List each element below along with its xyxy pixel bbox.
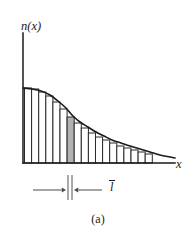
bar (103, 140, 110, 163)
x-axis-label: x (176, 158, 182, 171)
bar (81, 128, 88, 163)
bar (117, 146, 124, 163)
bar (110, 143, 117, 163)
dimension-arrowhead-right (74, 187, 78, 192)
bar (46, 96, 53, 163)
figure-container: n(x) x l (a) (0, 0, 196, 239)
figure-caption: (a) (0, 213, 196, 225)
bar (60, 109, 67, 163)
bar (96, 137, 103, 163)
bar (124, 148, 131, 163)
mean-free-path-label: l (110, 180, 113, 194)
bars-group (25, 88, 153, 163)
bar (53, 102, 60, 163)
bar (88, 133, 95, 163)
bar (39, 92, 46, 163)
bar (32, 89, 39, 163)
bar (145, 154, 152, 163)
mean-free-path-symbol: l (110, 180, 113, 194)
bar (138, 152, 145, 163)
bar (131, 150, 138, 163)
dimension-annotation (33, 175, 102, 200)
bar (74, 123, 81, 163)
y-axis-label: n(x) (21, 20, 41, 33)
dimension-arrowhead-left (62, 187, 66, 192)
bar-highlighted (67, 117, 74, 163)
bar (25, 88, 32, 163)
distribution-plot (0, 0, 196, 239)
